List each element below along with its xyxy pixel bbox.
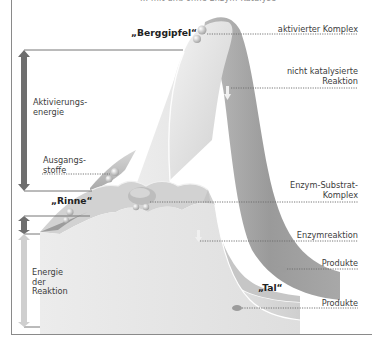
activation-energy-label: Aktivierungs- energie <box>33 98 87 117</box>
activation-energy-arrow <box>21 54 27 186</box>
reaction-energy-label: Energie der Reaktion <box>32 268 68 297</box>
valley-label: „Tal“ <box>258 283 283 293</box>
groove-label: „Rinne“ <box>51 196 93 206</box>
peak-surface <box>168 21 232 180</box>
product-disc-2 <box>232 305 242 311</box>
activated-complex-ball-1 <box>198 26 207 35</box>
uncatalyzed-arrow-icon <box>226 86 229 95</box>
substrate-ball-2 <box>106 176 113 183</box>
starting-materials-label: Ausgangs- stoffe <box>43 156 86 175</box>
reaction-energy-arrow <box>21 239 27 323</box>
activated-complex-label: aktivierter Komplex <box>278 25 358 35</box>
products-label-1: Produkte <box>322 259 358 269</box>
substrate-ball-1 <box>111 168 119 176</box>
uncatalyzed-reaction-label: nicht katalysierte Reaktion <box>287 67 358 86</box>
enzyme-arrow-icon <box>197 230 200 238</box>
groove-ball-1 <box>67 209 74 216</box>
peak-label: „Berggipfel“ <box>131 28 197 38</box>
product-disc-1 <box>277 266 287 272</box>
enzyme-substrate-complex-label: Enzym-Substrat- Komplex <box>290 181 358 200</box>
groove-ball-2 <box>63 217 69 223</box>
products-label-2: Produkte <box>322 299 358 309</box>
cut-off-caption: ... mit und ohne Enzym-Katalyse <box>140 0 276 3</box>
enzyme-reaction-label: Enzymreaktion <box>297 231 358 241</box>
